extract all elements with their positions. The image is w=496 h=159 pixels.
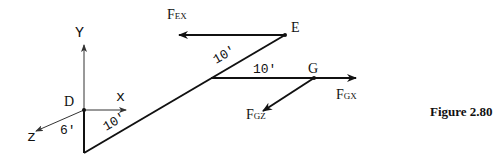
dimension-lower-diagonal: 10' [101, 110, 129, 135]
force-label-ex-sub: EX [175, 11, 187, 21]
figure-caption: Figure 2.80 [430, 104, 493, 120]
force-label-ex: FEX [167, 7, 187, 22]
diagonal-member [84, 35, 285, 153]
origin-label-d: D [64, 94, 74, 109]
z-axis-label: z [27, 129, 36, 146]
force-label-gx-main: F [336, 87, 344, 102]
y-axis-label: Y [75, 25, 84, 42]
force-label-gx-sub: GX [344, 91, 357, 101]
force-label-gz: FGZ [246, 107, 266, 122]
dimension-horizontal: 10' [253, 62, 276, 77]
force-label-ex-main: F [167, 7, 175, 22]
force-gz-arrow [263, 78, 314, 111]
force-label-gz-sub: GZ [254, 111, 266, 121]
force-label-gz-main: F [246, 107, 254, 122]
structure-diagram: Y x z D E G 6' 10' 10' 10' FEX FGX FGZ [0, 0, 496, 159]
x-axis-label: x [116, 89, 125, 106]
point-label-g: G [308, 61, 318, 76]
dimension-vertical: 6' [60, 123, 76, 138]
point-label-e: E [291, 20, 300, 35]
force-label-gx: FGX [336, 87, 357, 102]
